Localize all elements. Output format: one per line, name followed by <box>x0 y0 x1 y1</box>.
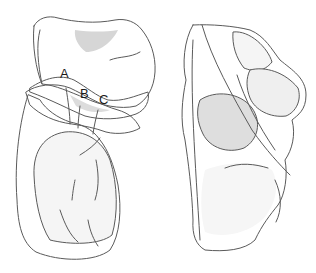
right-bone-lower-highlight <box>201 163 276 235</box>
left-bone-head <box>33 17 155 108</box>
right-ridge-3 <box>192 40 200 240</box>
left-bone-head-shadow <box>75 30 118 52</box>
left-bone-lower-highlight <box>34 132 116 244</box>
figure-canvas: A B C <box>0 0 316 273</box>
left-ridge-2 <box>110 52 140 60</box>
bone-illustration: A B C <box>0 0 316 273</box>
left-ridge-1 <box>38 30 42 84</box>
label-c: C <box>99 92 108 107</box>
right-bone-highlight-upper <box>233 32 272 71</box>
right-bone-view <box>182 25 306 251</box>
facet-line-c <box>93 110 98 134</box>
label-a: A <box>60 66 69 81</box>
left-bone-view <box>16 17 155 259</box>
right-bone-lobe <box>247 69 299 117</box>
right-bone-mid-oval <box>198 94 258 150</box>
label-b: B <box>80 86 89 101</box>
facet-line-a <box>66 88 70 124</box>
